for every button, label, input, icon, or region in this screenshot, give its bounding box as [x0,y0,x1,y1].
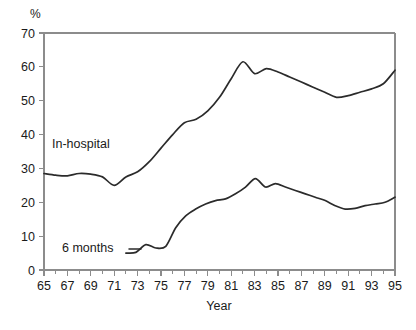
x-tick-label: 85 [271,279,285,293]
series-line-in-hospital [44,62,395,186]
y-axis-ticks [39,33,44,270]
x-tick-label: 69 [84,279,98,293]
y-tick-label: 10 [21,230,35,244]
x-tick-label: 83 [248,279,262,293]
y-tick-label: 50 [21,94,35,108]
x-tick-label: 77 [177,279,191,293]
y-axis-tick-labels: 010203040506070 [21,27,35,278]
line-chart: % 010203040506070 6567697173757779818385… [0,0,416,330]
y-tick-label: 30 [21,162,35,176]
x-tick-label: 75 [154,279,168,293]
x-tick-label: 89 [318,279,332,293]
x-axis-ticks [44,270,395,276]
series-line-6-months [126,179,395,254]
x-tick-label: 81 [224,279,238,293]
x-axis-title: Year [206,299,231,313]
x-tick-label: 71 [107,279,121,293]
series-label-6-months: 6 months [62,241,113,255]
y-tick-label: 40 [21,128,35,142]
x-tick-label: 95 [388,279,402,293]
x-tick-label: 79 [201,279,215,293]
x-tick-label: 65 [37,279,51,293]
x-tick-label: 91 [341,279,355,293]
y-tick-label: 0 [28,264,35,278]
chart-container: % 010203040506070 6567697173757779818385… [0,0,416,330]
y-axis-unit-label: % [30,7,41,21]
series-label-in-hospital: In-hospital [52,137,110,151]
y-tick-label: 20 [21,196,35,210]
x-tick-label: 87 [294,279,308,293]
x-axis-tick-labels: 65676971737577798183858789919395 [37,279,402,293]
y-tick-label: 60 [21,60,35,74]
y-tick-label: 70 [21,27,35,41]
x-tick-label: 73 [131,279,145,293]
x-tick-label: 93 [365,279,379,293]
x-tick-label: 67 [60,279,74,293]
